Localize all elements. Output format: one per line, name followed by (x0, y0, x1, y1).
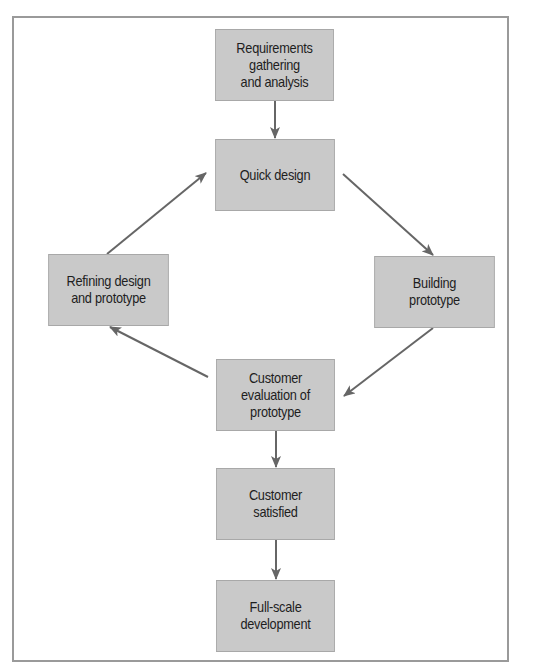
node-requirements-gathering: Requirements gathering and analysis (215, 29, 334, 101)
diagram-frame (12, 16, 509, 662)
node-customer-evaluation: Customer evaluation of prototype (216, 359, 335, 431)
node-label: Building prototype (409, 275, 460, 309)
node-label: Customer evaluation of prototype (241, 370, 310, 421)
node-building-prototype: Building prototype (374, 256, 495, 328)
node-label: Full-scale development (240, 599, 310, 633)
node-full-scale-development: Full-scale development (216, 580, 335, 652)
node-label: Requirements gathering and analysis (236, 40, 312, 91)
node-refining-design: Refining design and prototype (48, 254, 169, 326)
node-label: Customer satisfied (249, 487, 302, 521)
node-customer-satisfied: Customer satisfied (216, 468, 335, 540)
node-label: Quick design (240, 167, 311, 184)
node-quick-design: Quick design (215, 139, 335, 211)
node-label: Refining design and prototype (66, 273, 150, 307)
